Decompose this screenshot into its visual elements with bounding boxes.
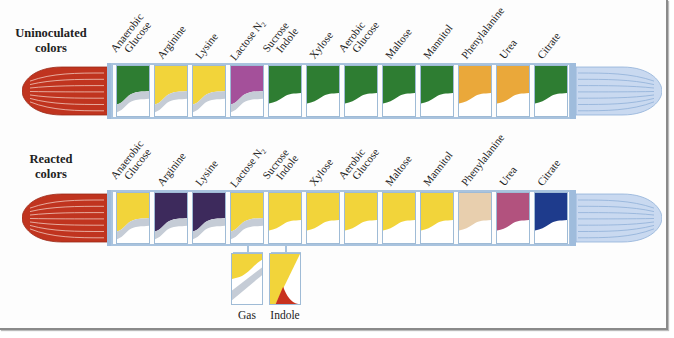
detail-well-gas	[231, 253, 263, 305]
well-arginine	[154, 65, 188, 117]
well-xylose	[306, 192, 340, 244]
well-sucrose-indole	[268, 65, 302, 117]
tube-tip-left-icon	[22, 65, 108, 117]
well-aerobic-glucose	[344, 65, 378, 117]
detail-label-indole: Indole	[265, 309, 305, 321]
well-urea	[496, 192, 530, 244]
well-aerobic-glucose	[344, 192, 378, 244]
tube-tip-right-icon	[576, 65, 662, 117]
detail-well-indole	[269, 253, 301, 305]
well-phenylalanine	[458, 192, 492, 244]
well-urea	[496, 65, 530, 117]
well-citrate	[534, 65, 568, 117]
well-citrate	[534, 192, 568, 244]
well-anaerobic-glucose	[116, 192, 150, 244]
row-label-line1: Uninoculated	[15, 26, 87, 40]
row-label-line2: colors	[35, 167, 67, 181]
well-mannitol	[420, 65, 454, 117]
well-anaerobic-glucose	[116, 65, 150, 117]
well-lysine	[192, 65, 226, 117]
well-maltose	[382, 65, 416, 117]
well-lactose-n	[230, 65, 264, 117]
well-arginine	[154, 192, 188, 244]
well-lysine	[192, 192, 226, 244]
well-xylose	[306, 65, 340, 117]
row-label-line1: Reacted	[29, 152, 72, 166]
well-maltose	[382, 192, 416, 244]
row-label-line2: colors	[35, 41, 67, 55]
detail-label-gas: Gas	[227, 309, 267, 321]
well-sucrose-indole	[268, 192, 302, 244]
tube-tip-right-icon	[576, 192, 662, 244]
diagram-panel	[0, 0, 668, 330]
tube-tip-left-icon	[22, 192, 108, 244]
well-lactose-n	[230, 192, 264, 244]
well-phenylalanine	[458, 65, 492, 117]
well-mannitol	[420, 192, 454, 244]
row-label-reacted: Reacted colors	[8, 152, 94, 182]
row-label-uninoculated: Uninoculated colors	[8, 26, 94, 56]
